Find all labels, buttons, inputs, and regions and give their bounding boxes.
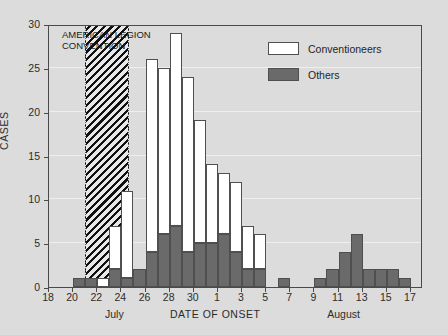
bar-segment-others <box>206 243 218 287</box>
x-tick-mark-14 <box>386 288 387 292</box>
bar-segment-others <box>387 269 399 287</box>
bar-july-24 <box>121 191 133 287</box>
bar-july-31 <box>206 164 218 287</box>
x-tick-mark-15 <box>410 288 411 292</box>
bar-segment-conventioneers <box>182 77 194 252</box>
bar-segment-others <box>109 269 121 287</box>
bar-aug-15 <box>387 269 399 287</box>
bar-segment-conventioneers <box>97 278 109 287</box>
bar-aug-16 <box>399 278 411 287</box>
bar-july-25 <box>133 269 145 287</box>
chart-legend: Conventioneers Others <box>268 42 382 94</box>
bar-aug-11 <box>339 252 351 287</box>
month-label-july: July <box>79 308 149 320</box>
bar-july-22 <box>97 278 109 287</box>
x-tick-mark-5 <box>169 288 170 292</box>
bar-segment-conventioneers <box>218 173 230 234</box>
x-tick-mark-3 <box>120 288 121 292</box>
bar-segment-others <box>375 269 387 287</box>
bar-segment-conventioneers <box>109 226 121 270</box>
legend-label-others: Others <box>308 69 340 81</box>
legend-swatch-others <box>268 68 299 81</box>
epidemic-curve-figure: CASES DATE OF ONSET 051015202530 1820222… <box>0 0 448 335</box>
x-tick-mark-8 <box>241 288 242 292</box>
month-label-august: August <box>309 308 379 320</box>
bar-segment-conventioneers <box>194 120 206 243</box>
x-tick-mark-0 <box>48 288 49 292</box>
bar-segment-conventioneers <box>121 191 133 279</box>
x-tick-mark-6 <box>193 288 194 292</box>
bar-july-20 <box>73 278 85 287</box>
legend-label-conventioneers: Conventioneers <box>308 43 382 55</box>
bar-segment-others <box>194 243 206 287</box>
x-axis-title: DATE OF ONSET <box>170 308 260 320</box>
y-tick-label-15: 15 <box>0 151 40 161</box>
bar-segment-others <box>170 226 182 287</box>
bar-segment-others <box>85 278 97 287</box>
x-tick-mark-10 <box>289 288 290 292</box>
x-tick-mark-11 <box>313 288 314 292</box>
bar-segment-others <box>326 269 338 287</box>
legend-swatch-conventioneers <box>268 42 299 55</box>
bar-aug-2 <box>230 182 242 287</box>
x-tick-mark-2 <box>96 288 97 292</box>
y-tick-label-10: 10 <box>0 194 40 204</box>
bar-segment-others <box>158 234 170 287</box>
bar-segment-conventioneers <box>242 226 254 270</box>
convention-annotation: AMERICAN LEGION CONVENTION <box>62 30 151 51</box>
bar-segment-others <box>182 252 194 287</box>
bar-aug-14 <box>375 269 387 287</box>
bar-segment-conventioneers <box>206 164 218 243</box>
y-tick-label-5: 5 <box>0 238 40 248</box>
x-tick-label-17-15: 17 <box>395 292 425 303</box>
bar-segment-others <box>254 269 266 287</box>
bar-aug-3 <box>242 226 254 287</box>
bar-aug-4 <box>254 234 266 287</box>
bar-july-27 <box>158 68 170 287</box>
y-tick-label-0: 0 <box>0 282 40 292</box>
bar-july-29 <box>182 77 194 287</box>
bar-july-28 <box>170 33 182 287</box>
bar-segment-others <box>146 252 158 287</box>
bar-segment-others <box>218 234 230 287</box>
x-tick-mark-13 <box>362 288 363 292</box>
bar-segment-conventioneers <box>158 68 170 235</box>
legend-item-others: Others <box>268 68 382 81</box>
bar-segment-others <box>242 269 254 287</box>
bar-segment-others <box>133 269 145 287</box>
bar-july-23 <box>109 226 121 287</box>
convention-annotation-line2: CONVENTION <box>62 41 151 52</box>
bar-segment-others <box>363 269 375 287</box>
x-tick-mark-4 <box>145 288 146 292</box>
bar-aug-12 <box>351 234 363 287</box>
x-tick-mark-1 <box>72 288 73 292</box>
bar-segment-others <box>351 234 363 287</box>
bar-july-21 <box>85 278 97 287</box>
bar-aug-10 <box>326 269 338 287</box>
bar-segment-others <box>278 278 290 287</box>
x-tick-mark-12 <box>338 288 339 292</box>
y-axis-title: CASES <box>0 111 10 150</box>
bar-segment-conventioneers <box>230 182 242 252</box>
bar-segment-conventioneers <box>254 234 266 269</box>
bar-segment-conventioneers <box>146 59 158 252</box>
bar-segment-others <box>399 278 411 287</box>
y-tick-label-20: 20 <box>0 107 40 117</box>
y-tick-label-30: 30 <box>0 19 40 29</box>
convention-annotation-line1: AMERICAN LEGION <box>62 30 151 41</box>
bar-segment-conventioneers <box>170 33 182 226</box>
y-tick-label-25: 25 <box>0 63 40 73</box>
x-tick-mark-9 <box>265 288 266 292</box>
bar-aug-1 <box>218 173 230 287</box>
bar-segment-others <box>121 278 133 287</box>
bar-aug-6 <box>278 278 290 287</box>
bar-july-26 <box>146 59 158 287</box>
x-tick-mark-7 <box>217 288 218 292</box>
bar-july-30 <box>194 120 206 287</box>
bar-aug-13 <box>363 269 375 287</box>
bar-segment-others <box>339 252 351 287</box>
bar-segment-others <box>314 278 326 287</box>
bar-segment-others <box>230 252 242 287</box>
legend-item-conventioneers: Conventioneers <box>268 42 382 55</box>
bar-aug-9 <box>314 278 326 287</box>
